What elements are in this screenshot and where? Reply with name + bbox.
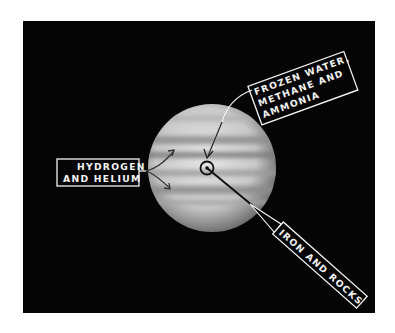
label-core: IRON AND ROCKS [273, 222, 368, 308]
label-outer-line2: AND HELIUM [63, 173, 141, 184]
core-callout-tail [250, 204, 281, 233]
label-outer: HYDROGEN AND HELIUM [57, 159, 146, 186]
jupiter-diagram: IRON AND ROCKS FROZEN WATER, METHANE AND… [0, 0, 395, 333]
label-mantle: FROZEN WATER, METHANE AND AMMONIA [248, 50, 361, 125]
label-core-text: IRON AND ROCKS [277, 227, 365, 307]
label-outer-line1: HYDROGEN [77, 161, 146, 172]
